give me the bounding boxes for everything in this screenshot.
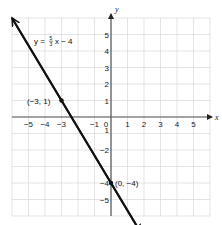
data-point-marker <box>109 181 113 185</box>
x-tick-label: 3 <box>158 120 163 129</box>
x-tick-label: −3 <box>57 120 67 129</box>
equation-prefix: y = <box>34 37 45 46</box>
x-tick-label: −4 <box>40 120 50 129</box>
y-tick-label: 2 <box>105 80 110 89</box>
equation-label: y = 5 3 x − 4 <box>34 35 73 47</box>
x-axis-label: x <box>214 113 219 122</box>
y-tick-label: 4 <box>105 47 110 56</box>
y-tick-label: −5 <box>100 196 110 205</box>
point-b-label: (0, −4) <box>115 179 139 188</box>
data-point-marker <box>59 98 63 102</box>
y-axis-label: y <box>114 5 119 14</box>
x-tick-label: 5 <box>191 120 196 129</box>
y-tick-label: 3 <box>105 64 110 73</box>
x-tick-label: −5 <box>24 120 34 129</box>
x-tick-label: −1 <box>90 120 100 129</box>
x-tick-label: 2 <box>142 120 147 129</box>
y-tick-label: 5 <box>105 31 110 40</box>
y-tick-label: 1 <box>105 126 110 135</box>
y-tick-label: −4 <box>100 179 110 188</box>
x-tick-label: 4 <box>175 120 180 129</box>
y-tick-label: −2 <box>100 146 110 155</box>
coordinate-plane: −5−4−3−1012345543211−2−4−5 y x y = 5 3 x… <box>0 0 222 225</box>
point-a-label: (−3, 1) <box>27 97 51 106</box>
x-tick-label: 1 <box>125 120 130 129</box>
equation-suffix: x − 4 <box>55 37 73 46</box>
y-tick-label: 1 <box>105 97 110 106</box>
equation-denominator: 3 <box>50 41 53 47</box>
